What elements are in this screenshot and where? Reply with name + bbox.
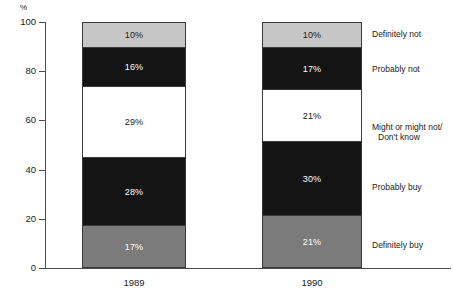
bar-1990-label-definitely-buy: 21%	[303, 237, 321, 247]
bar-1989-segment-definitely-not[interactable]: 10%	[83, 23, 185, 48]
legend-item-definitely-buy[interactable]: Definitely buy	[372, 240, 453, 250]
y-tick-20: 20	[0, 214, 36, 224]
bar-1989-label-definitely-not: 10%	[125, 30, 143, 40]
x-axis-label-1990: 1990	[262, 277, 362, 288]
bar-1990-segment-definitely-not[interactable]: 10%	[263, 23, 361, 48]
y-tick-label-20: 20	[2, 214, 36, 224]
bar-1989[interactable]: 10% 16% 29% 28% 17%	[82, 22, 186, 268]
bar-1990-segment-probably-buy[interactable]: 30%	[263, 142, 361, 216]
legend-label-definitely-not: Definitely not	[372, 29, 421, 39]
legend-item-probably-not[interactable]: Probably not	[372, 64, 453, 74]
legend-label-might-or-might-not-line1: Might or might not/	[372, 122, 442, 132]
y-tick-0: 0	[0, 263, 36, 273]
y-tick-80: 80	[0, 66, 36, 76]
bar-1990-label-definitely-not: 10%	[303, 30, 321, 40]
legend: Definitely not Probably not Might or mig…	[372, 22, 453, 268]
y-tick-label-0: 0	[2, 263, 36, 273]
y-tick-mark-20	[39, 219, 45, 220]
bar-1989-segment-might-or-might-not[interactable]: 29%	[83, 87, 185, 158]
y-tick-60: 60	[0, 115, 36, 125]
legend-item-definitely-not[interactable]: Definitely not	[372, 29, 453, 39]
y-tick-label-80: 80	[2, 66, 36, 76]
y-tick-label-60: 60	[2, 115, 36, 125]
y-tick-label-100: 100	[2, 17, 36, 27]
bar-1990[interactable]: 10% 17% 21% 30% 21%	[262, 22, 362, 268]
bar-1989-segment-probably-not[interactable]: 16%	[83, 48, 185, 87]
y-tick-mark-40	[39, 170, 45, 171]
x-axis-line	[45, 268, 451, 269]
x-axis-label-1989: 1989	[82, 277, 186, 288]
bar-1990-label-probably-buy: 30%	[303, 174, 321, 184]
bar-1990-segment-probably-not[interactable]: 17%	[263, 48, 361, 90]
bar-1989-segment-definitely-buy[interactable]: 17%	[83, 226, 185, 267]
legend-label-might-or-might-not-line2: Don't know	[372, 132, 453, 142]
y-tick-mark-100	[39, 22, 45, 23]
y-axis-unit-label: %	[20, 3, 27, 12]
legend-label-definitely-buy: Definitely buy	[372, 240, 423, 250]
bar-1989-label-might-or-might-not: 29%	[125, 117, 143, 127]
bar-1990-segment-definitely-buy[interactable]: 21%	[263, 216, 361, 267]
y-tick-mark-60	[39, 120, 45, 121]
bar-1990-label-might-or-might-not: 21%	[303, 111, 321, 121]
legend-label-probably-not: Probably not	[372, 64, 420, 74]
y-tick-100: 100	[0, 17, 36, 27]
legend-label-probably-buy: Probably buy	[372, 182, 422, 192]
legend-item-might-or-might-not[interactable]: Might or might not/ Don't know	[372, 122, 453, 142]
bar-1989-label-definitely-buy: 17%	[125, 242, 143, 252]
y-tick-label-40: 40	[2, 165, 36, 175]
y-tick-mark-0	[39, 268, 45, 269]
bar-1990-segment-might-or-might-not[interactable]: 21%	[263, 90, 361, 142]
legend-item-probably-buy[interactable]: Probably buy	[372, 182, 453, 192]
stacked-bar-chart: % 100 80 60 40 20 0 10%	[0, 0, 453, 297]
bar-1989-label-probably-buy: 28%	[125, 187, 143, 197]
bar-1990-label-probably-not: 17%	[303, 64, 321, 74]
y-tick-40: 40	[0, 165, 36, 175]
y-tick-mark-80	[39, 71, 45, 72]
bar-1989-segment-probably-buy[interactable]: 28%	[83, 158, 185, 226]
y-axis-line	[45, 22, 46, 268]
bar-1989-label-probably-not: 16%	[125, 62, 143, 72]
